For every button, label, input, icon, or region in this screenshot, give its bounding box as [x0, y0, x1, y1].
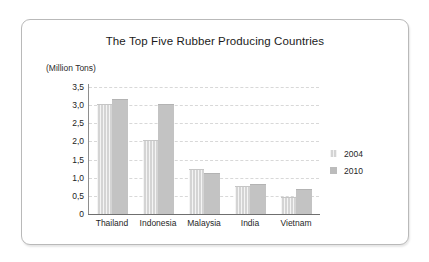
x-axis-label-indonesia: Indonesia — [135, 218, 181, 228]
y-axis-line — [88, 84, 89, 215]
bar-thailand-2010[interactable] — [112, 99, 128, 214]
bar-group — [97, 87, 128, 214]
x-axis-line — [88, 214, 320, 215]
bar-group — [143, 87, 174, 214]
bar-india-2004[interactable] — [235, 186, 251, 214]
bar-india-2010[interactable] — [250, 184, 266, 214]
y-axis-tick-label: 2,0 — [44, 136, 84, 146]
bar-vietnam-2004[interactable] — [281, 197, 297, 214]
x-axis-category-labels: ThailandIndonesiaMalaysiaIndiaVietnam — [89, 218, 319, 234]
bar-group — [281, 87, 312, 214]
y-axis-tick-label: 0,5 — [44, 191, 84, 201]
bar-group — [189, 87, 220, 214]
y-axis-tick-label: 2,5 — [44, 118, 84, 128]
bar-thailand-2004[interactable] — [97, 104, 113, 214]
legend-label: 2010 — [344, 166, 363, 176]
x-axis-label-vietnam: Vietnam — [273, 218, 319, 228]
bar-malaysia-2010[interactable] — [204, 173, 220, 214]
chart-card: The Top Five Rubber Producing Countries … — [21, 19, 409, 245]
bar-malaysia-2004[interactable] — [189, 169, 205, 214]
chart-legend: 20042010 — [330, 145, 402, 179]
plot-area — [89, 87, 319, 214]
legend-item-2010[interactable]: 2010 — [330, 162, 402, 179]
y-axis-tick-label: 1,5 — [44, 155, 84, 165]
y-axis-tick-labels: 00,51,01,52,02,53,03,5 — [40, 87, 84, 214]
y-axis-tick-label: 0 — [44, 209, 84, 219]
legend-swatch-icon — [330, 150, 337, 157]
legend-item-2004[interactable]: 2004 — [330, 145, 402, 162]
y-axis-tick-label: 3,5 — [44, 82, 84, 92]
x-axis-label-thailand: Thailand — [89, 218, 135, 228]
bar-group — [235, 87, 266, 214]
y-axis-tick-label: 1,0 — [44, 173, 84, 183]
bar-indonesia-2004[interactable] — [143, 140, 159, 214]
x-axis-label-india: India — [227, 218, 273, 228]
legend-label: 2004 — [344, 149, 363, 159]
legend-swatch-icon — [330, 167, 337, 174]
bar-vietnam-2010[interactable] — [296, 189, 312, 214]
bar-indonesia-2010[interactable] — [158, 104, 174, 214]
chart-title: The Top Five Rubber Producing Countries — [22, 35, 408, 47]
x-axis-label-malaysia: Malaysia — [181, 218, 227, 228]
y-axis-tick-label: 3,0 — [44, 100, 84, 110]
y-axis-unit-label: (Million Tons) — [46, 63, 96, 73]
